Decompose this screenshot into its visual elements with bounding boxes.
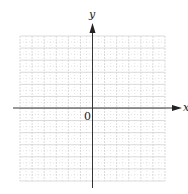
origin-label: 0 <box>84 110 91 123</box>
coordinate-plane: y x 0 <box>0 0 188 194</box>
y-axis-label: y <box>88 8 96 21</box>
y-axis-arrow-icon <box>90 23 96 33</box>
x-axis-arrow-icon <box>172 105 182 111</box>
x-axis-label: x <box>183 101 188 114</box>
